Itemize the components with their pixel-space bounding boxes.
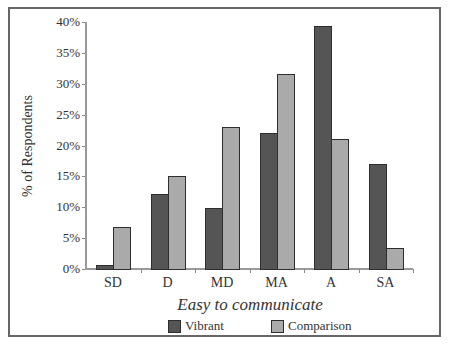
x-tick-mark	[413, 269, 414, 273]
y-axis-line	[85, 22, 87, 270]
bar-comparison-d	[168, 176, 186, 270]
x-axis-label: Easy to communicate	[86, 295, 414, 315]
legend-item-vibrant: Vibrant	[168, 318, 224, 334]
x-tick-label: A	[304, 275, 358, 291]
x-tick-mark	[304, 269, 305, 273]
bar-comparison-ma	[277, 74, 295, 270]
bar-comparison-sd	[113, 227, 131, 270]
y-tick-label: 20%	[40, 138, 80, 154]
bar-comparison-md	[222, 127, 240, 270]
y-tick-label: 35%	[40, 45, 80, 61]
legend-item-comparison: Comparison	[271, 318, 352, 334]
legend-label-comparison: Comparison	[288, 318, 352, 334]
bar-vibrant-a	[314, 26, 332, 270]
bar-comparison-a	[331, 139, 349, 270]
x-tick-mark	[359, 269, 360, 273]
y-tick-label: 40%	[40, 14, 80, 30]
legend-swatch-vibrant	[168, 320, 181, 333]
x-tick-mark	[250, 269, 251, 273]
x-tick-label: SA	[359, 275, 413, 291]
bar-comparison-sa	[386, 248, 404, 270]
x-tick-label: SD	[86, 275, 140, 291]
y-tick-label: 15%	[40, 168, 80, 184]
x-tick-label: MA	[250, 275, 304, 291]
legend-label-vibrant: Vibrant	[185, 318, 224, 334]
bar-vibrant-ma	[260, 133, 278, 270]
y-tick-label: 25%	[40, 107, 80, 123]
y-tick-label: 30%	[40, 76, 80, 92]
y-axis-label: % of Respondents	[20, 95, 36, 197]
x-tick-mark	[141, 269, 142, 273]
y-tick-label: 5%	[40, 230, 80, 246]
x-tick-label: D	[141, 275, 195, 291]
legend-swatch-comparison	[271, 320, 284, 333]
y-tick-label: 0%	[40, 261, 80, 277]
bar-vibrant-md	[205, 208, 223, 270]
bar-vibrant-d	[151, 194, 169, 270]
y-tick-label: 10%	[40, 199, 80, 215]
bar-vibrant-sa	[369, 164, 387, 270]
x-tick-mark	[195, 269, 196, 273]
bar-vibrant-sd	[96, 265, 114, 270]
x-tick-label: MD	[195, 275, 249, 291]
legend: Vibrant Comparison	[0, 318, 450, 334]
